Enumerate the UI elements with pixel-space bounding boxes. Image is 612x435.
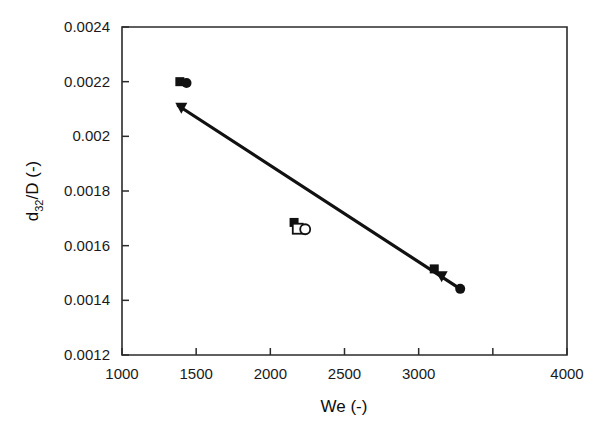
- y-tick-label-0.0022: 0.0022: [64, 73, 110, 90]
- y-tick-label-0.0012: 0.0012: [64, 346, 110, 363]
- svg-text:We (-): We (-): [321, 397, 368, 416]
- x-tick-label-2500: 2500: [328, 365, 361, 382]
- y-tick-label-0.0014: 0.0014: [64, 291, 110, 308]
- x-tick-label-2000: 2000: [254, 365, 287, 382]
- chart-background: [0, 0, 612, 435]
- y-axis-title: d32/D (-): [23, 161, 45, 221]
- svg-text:d32/D (-): d32/D (-): [23, 161, 45, 221]
- scatter-plot-svg: 100015002000250030004000 0.00120.00140.0…: [0, 0, 612, 435]
- chart-figure: 100015002000250030004000 0.00120.00140.0…: [0, 0, 612, 435]
- x-tick-label-4000: 4000: [550, 365, 583, 382]
- marker-filled-circle-1: [455, 284, 465, 294]
- marker-open-circle-0: [300, 224, 310, 234]
- x-axis-title: We (-): [321, 397, 368, 416]
- y-tick-label-0.0024: 0.0024: [64, 18, 110, 35]
- x-tick-label-1000: 1000: [105, 365, 138, 382]
- x-tick-label-3000: 3000: [402, 365, 435, 382]
- marker-filled-circle-0: [182, 78, 192, 88]
- y-tick-label-0.002: 0.002: [72, 127, 110, 144]
- x-tick-label-1500: 1500: [179, 365, 212, 382]
- y-tick-label-0.0016: 0.0016: [64, 237, 110, 254]
- y-tick-label-0.0018: 0.0018: [64, 182, 110, 199]
